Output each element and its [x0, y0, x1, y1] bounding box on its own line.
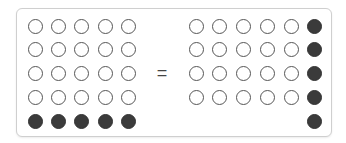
right-filled-circle-icon	[307, 19, 322, 34]
right-empty-circle-icon	[236, 19, 251, 34]
left-empty-circle-icon	[98, 19, 113, 34]
right-empty-circle-icon	[236, 90, 251, 105]
left-filled-circle-icon	[51, 114, 66, 129]
right-empty-circle-icon	[212, 66, 227, 81]
left-empty-circle-icon	[121, 90, 136, 105]
left-empty-circle-icon	[51, 66, 66, 81]
left-empty-circle-icon	[74, 42, 89, 57]
left-empty-circle-icon	[28, 19, 43, 34]
left-empty-circle-icon	[98, 42, 113, 57]
right-empty-circle-icon	[189, 90, 204, 105]
right-empty-circle-icon	[189, 66, 204, 81]
right-empty-circle-icon	[284, 66, 299, 81]
right-filled-circle-icon	[307, 42, 322, 57]
right-empty-circle-icon	[260, 42, 275, 57]
left-empty-circle-icon	[51, 19, 66, 34]
left-empty-circle-icon	[98, 66, 113, 81]
right-filled-circle-icon	[307, 90, 322, 105]
left-filled-circle-icon	[74, 114, 89, 129]
right-empty-circle-icon	[212, 90, 227, 105]
right-empty-circle-icon	[284, 42, 299, 57]
equals-sign: =	[154, 63, 170, 83]
left-empty-circle-icon	[98, 90, 113, 105]
right-empty-circle-icon	[284, 90, 299, 105]
left-empty-circle-icon	[28, 90, 43, 105]
left-empty-circle-icon	[51, 42, 66, 57]
right-empty-circle-icon	[260, 90, 275, 105]
right-empty-circle-icon	[212, 42, 227, 57]
left-empty-circle-icon	[121, 42, 136, 57]
right-empty-circle-icon	[236, 42, 251, 57]
left-empty-circle-icon	[28, 66, 43, 81]
right-empty-circle-icon	[189, 19, 204, 34]
left-empty-circle-icon	[74, 90, 89, 105]
left-empty-circle-icon	[121, 19, 136, 34]
left-filled-circle-icon	[121, 114, 136, 129]
right-empty-circle-icon	[260, 19, 275, 34]
right-empty-circle-icon	[236, 66, 251, 81]
right-empty-circle-icon	[189, 42, 204, 57]
right-empty-circle-icon	[212, 19, 227, 34]
right-filled-circle-icon	[307, 114, 322, 129]
left-filled-circle-icon	[28, 114, 43, 129]
left-filled-circle-icon	[98, 114, 113, 129]
left-empty-circle-icon	[121, 66, 136, 81]
left-empty-circle-icon	[28, 42, 43, 57]
left-empty-circle-icon	[51, 90, 66, 105]
left-empty-circle-icon	[74, 19, 89, 34]
right-empty-circle-icon	[284, 19, 299, 34]
right-empty-circle-icon	[260, 66, 275, 81]
left-empty-circle-icon	[74, 66, 89, 81]
right-filled-circle-icon	[307, 66, 322, 81]
